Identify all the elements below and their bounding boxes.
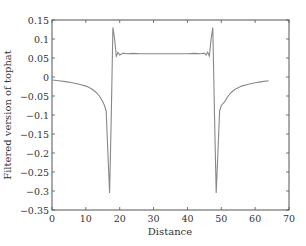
y-tick-label: −0.1 xyxy=(26,110,49,121)
y-tick-label: 0.1 xyxy=(34,34,49,45)
y-tick-label: −0.3 xyxy=(26,186,49,197)
x-axis-ticks: 010203040506070 xyxy=(49,20,295,224)
plot-frame xyxy=(52,20,289,210)
x-tick-label: 70 xyxy=(283,213,295,224)
y-tick-label: −0.2 xyxy=(26,148,49,159)
y-tick-label: 0.15 xyxy=(28,15,49,26)
y-tick-label: 0 xyxy=(43,72,49,83)
y-axis-ticks: 0.150.10.050−0.05−0.1−0.15−0.2−0.25−0.3−… xyxy=(20,15,289,216)
x-tick-label: 40 xyxy=(181,213,193,224)
y-tick-label: −0.25 xyxy=(20,167,49,178)
x-tick-label: 20 xyxy=(114,213,126,224)
x-axis-label: Distance xyxy=(148,226,192,237)
line-chart: 0.150.10.050−0.05−0.1−0.15−0.2−0.25−0.3−… xyxy=(0,0,306,246)
x-tick-label: 10 xyxy=(80,213,92,224)
y-tick-label: 0.05 xyxy=(28,53,49,64)
data-line xyxy=(52,28,269,193)
x-tick-label: 60 xyxy=(249,213,261,224)
x-tick-label: 30 xyxy=(148,213,160,224)
y-axis-label: Filtered version of tophat xyxy=(2,50,13,180)
y-tick-label: −0.35 xyxy=(20,205,49,216)
x-tick-label: 0 xyxy=(49,213,55,224)
y-tick-label: −0.15 xyxy=(20,129,49,140)
x-tick-label: 50 xyxy=(215,213,227,224)
y-tick-label: −0.05 xyxy=(20,91,49,102)
